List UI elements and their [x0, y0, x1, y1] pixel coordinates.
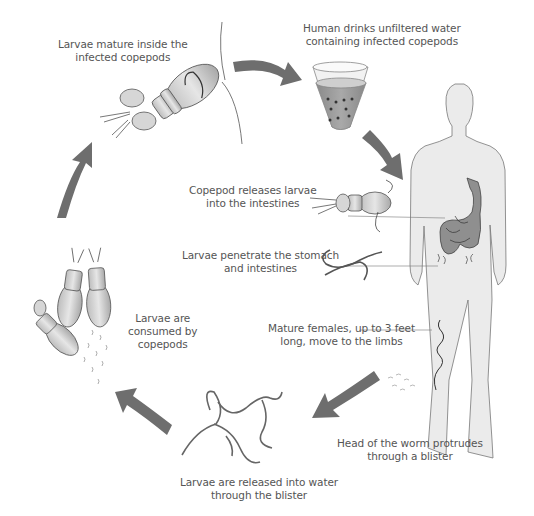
label-mature-females: Mature females, up to 3 feet long, move … — [268, 322, 415, 348]
label-line: Mature females, up to 3 feet — [268, 322, 415, 335]
label-larvae-consumed: Larvae are consumed by copepods — [128, 312, 197, 351]
copepods-consuming-illustration — [33, 247, 112, 384]
label-copepod-releases: Copepod releases larvae into the intesti… — [189, 184, 317, 210]
life-cycle-diagram: Larvae mature inside the infected copepo… — [0, 0, 534, 516]
label-line: Larvae are released into water — [180, 476, 338, 489]
copepod-releasing-illustration — [310, 180, 393, 232]
label-human-drinks: Human drinks unfiltered water containing… — [303, 22, 461, 48]
arrow-water-to-copepods — [115, 388, 172, 435]
label-line: consumed by — [128, 325, 197, 338]
label-line: and intestines — [182, 262, 339, 275]
label-larvae-penetrate: Larvae penetrate the stomach and intesti… — [182, 249, 339, 275]
label-line: through the blister — [180, 489, 338, 502]
arrow-drink-to-human — [362, 130, 403, 180]
free-larvae-specks — [84, 330, 107, 384]
label-line: long, move to the limbs — [268, 335, 415, 348]
human-body-illustration — [410, 84, 506, 458]
label-line: through a blister — [337, 450, 483, 463]
label-line: Larvae mature inside the — [58, 38, 188, 51]
label-line: infected copepods — [58, 51, 188, 64]
label-line: Larvae are — [128, 312, 197, 325]
larvae-released-illustration — [182, 391, 282, 462]
label-line: Copepod releases larvae — [189, 184, 317, 197]
larvae-near-blister — [388, 374, 415, 390]
label-line: into the intestines — [189, 197, 317, 210]
label-larvae-released: Larvae are released into water through t… — [180, 476, 338, 502]
water-glass-illustration — [313, 62, 368, 130]
label-larvae-mature: Larvae mature inside the infected copepo… — [58, 38, 188, 64]
arrow-copepods-to-mature — [57, 142, 92, 218]
arrow-mature-to-drink — [233, 60, 302, 86]
label-line: Larvae penetrate the stomach — [182, 249, 339, 262]
arrow-limb-to-water — [312, 371, 380, 418]
label-line: copepods — [128, 338, 197, 351]
label-line: Head of the worm protrudes — [337, 437, 483, 450]
label-line: containing infected copepods — [303, 35, 461, 48]
label-head-protrudes: Head of the worm protrudes through a bli… — [337, 437, 483, 463]
label-line: Human drinks unfiltered water — [303, 22, 461, 35]
